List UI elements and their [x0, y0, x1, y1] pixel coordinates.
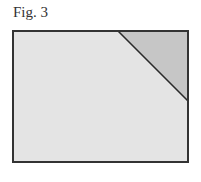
figure-diagram — [0, 0, 201, 182]
